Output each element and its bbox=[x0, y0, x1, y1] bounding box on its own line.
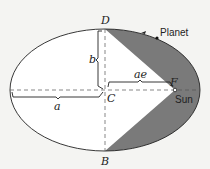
orbit-diagram: D B C F a b ae Planet Sun bbox=[0, 0, 210, 169]
label-b: B bbox=[100, 155, 109, 168]
label-planet: Planet bbox=[160, 27, 189, 38]
label-sun: Sun bbox=[175, 94, 193, 105]
label-b-axis: b bbox=[89, 53, 96, 66]
planet-dot bbox=[155, 36, 158, 39]
label-c: C bbox=[107, 92, 116, 105]
label-f: F bbox=[169, 76, 178, 89]
label-ae: ae bbox=[134, 68, 148, 81]
label-d: D bbox=[100, 14, 110, 27]
label-a: a bbox=[54, 100, 61, 113]
